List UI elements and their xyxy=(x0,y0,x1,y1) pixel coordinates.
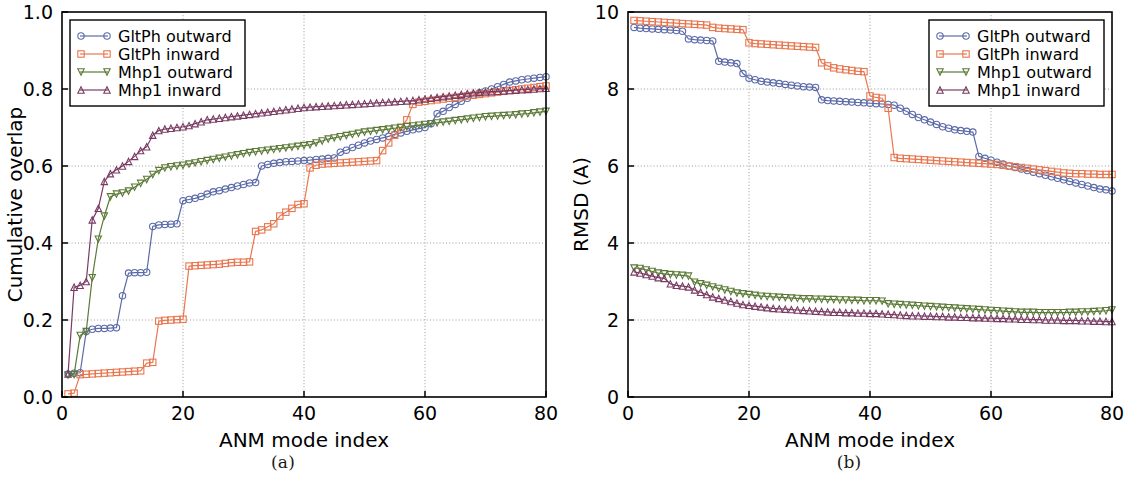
y-tick-label: 6 xyxy=(607,155,619,177)
y-tick-label: 0 xyxy=(607,386,619,408)
x-axis-title: ANM mode index xyxy=(785,428,955,452)
panel-a-caption: (a) xyxy=(0,452,566,472)
legend-label: Mhp1 outward xyxy=(977,63,1092,82)
y-axis-title: Cumulative overlap xyxy=(3,107,27,303)
x-tick-label: 60 xyxy=(979,402,1003,424)
y-tick-label: 10 xyxy=(595,1,619,23)
y-axis-title: RMSD (A) xyxy=(569,157,593,252)
y-tick-label: 2 xyxy=(607,309,619,331)
x-axis-title: ANM mode index xyxy=(219,428,389,452)
legend-label: Mhp1 inward xyxy=(118,81,221,100)
y-tick-label: 0.4 xyxy=(23,232,53,254)
x-tick-label: 40 xyxy=(292,402,316,424)
x-tick-label: 20 xyxy=(171,402,195,424)
y-tick-label: 0.6 xyxy=(23,155,53,177)
y-tick-label: 0.2 xyxy=(23,309,53,331)
y-tick-label: 8 xyxy=(607,78,619,100)
legend: GltPh outwardGltPh inwardMhp1 outwardMhp… xyxy=(929,20,1104,106)
rmsd-chart: 0246810020406080ANM mode indexRMSD (A)Gl… xyxy=(566,0,1132,480)
x-tick-label: 40 xyxy=(858,402,882,424)
x-tick-label: 20 xyxy=(737,402,761,424)
legend-label: GltPh inward xyxy=(118,45,220,64)
legend-label: GltPh inward xyxy=(977,45,1079,64)
panel-b: 0246810020406080ANM mode indexRMSD (A)Gl… xyxy=(566,0,1132,480)
y-tick-label: 4 xyxy=(607,232,619,254)
legend: GltPh outwardGltPh inwardMhp1 outwardMhp… xyxy=(70,20,245,106)
x-tick-label: 80 xyxy=(534,402,558,424)
legend-label: Mhp1 outward xyxy=(118,63,233,82)
x-tick-label: 0 xyxy=(56,402,68,424)
y-tick-label: 1.0 xyxy=(23,1,53,23)
panel-a: 0.00.20.40.60.81.0020406080ANM mode inde… xyxy=(0,0,566,480)
y-tick-label: 0.0 xyxy=(23,386,53,408)
figure-container: 0.00.20.40.60.81.0020406080ANM mode inde… xyxy=(0,0,1132,480)
cumulative-overlap-chart: 0.00.20.40.60.81.0020406080ANM mode inde… xyxy=(0,0,566,480)
x-tick-label: 0 xyxy=(622,402,634,424)
legend-label: GltPh outward xyxy=(977,27,1091,46)
legend-label: GltPh outward xyxy=(118,27,232,46)
y-tick-label: 0.8 xyxy=(23,78,53,100)
x-tick-label: 80 xyxy=(1100,402,1124,424)
x-tick-label: 60 xyxy=(413,402,437,424)
panel-b-caption: (b) xyxy=(566,452,1132,472)
legend-label: Mhp1 inward xyxy=(977,81,1080,100)
